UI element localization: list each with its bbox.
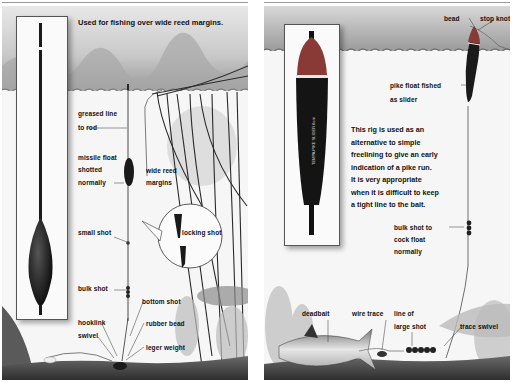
top-rule-right — [264, 2, 510, 3]
desc-line-2: alternative to simple — [351, 137, 461, 150]
desc-line-6: when it is difficult to keep — [351, 187, 461, 200]
label-to-rod: to rod — [78, 123, 97, 132]
desc-line-7: a tight line to the bait. — [351, 199, 461, 212]
label-bulk-shot-to: bulk shot to — [394, 223, 432, 232]
desc-line-1: This rig is used as an — [351, 124, 461, 137]
desc-line-5: It is very appropriate — [351, 174, 461, 187]
missile-float-image — [17, 17, 67, 319]
label-pike-float: pike float fished — [390, 81, 441, 90]
rig-description: This rig is used as an alternative to si… — [351, 124, 461, 212]
label-small-shot: small shot — [78, 228, 111, 237]
label-trace-swivel: trace swivel — [460, 322, 498, 331]
label-deadbait: deadbait — [302, 309, 330, 318]
label-rubber-bead: rubber bead — [146, 319, 185, 328]
top-rule-left — [2, 2, 248, 3]
label-bottom-shot: bottom shot — [142, 297, 181, 306]
missile-float-rig-panel: Used for fishing over wide reed margins.… — [2, 6, 248, 380]
pike-float-inset: TEMPA PIKE SLIDER float — [284, 24, 340, 246]
label-locking-shot: locking shot — [182, 228, 221, 237]
label-greased-line: greased line — [78, 109, 117, 118]
label-missile-float: missile float — [78, 153, 117, 162]
label-bead: bead — [444, 14, 460, 23]
pike-slider-rig-panel: TEMPA PIKE SLIDER float This rig is used… — [264, 6, 510, 380]
label-line-of: line of — [394, 309, 414, 318]
label-margins: margins — [146, 178, 172, 187]
float-brand-text: TEMPA PIKE SLIDER float — [311, 116, 316, 165]
label-stop-knot: stop knot — [480, 14, 510, 23]
desc-line-4: indication of a pike run. — [351, 162, 461, 175]
label-hooklink: hooklink — [78, 318, 106, 327]
label-large-shot: large shot — [394, 322, 426, 331]
label-wide-reed: wide reed — [146, 166, 177, 175]
label-bulk-shot: bulk shot — [78, 284, 108, 293]
rig-caption: Used for fishing over wide reed margins. — [78, 18, 223, 27]
pike-slider-float-image: TEMPA PIKE SLIDER float — [285, 25, 339, 245]
label-normally: normally — [78, 178, 106, 187]
label-as-slider: as slider — [390, 95, 417, 104]
label-normally-right: normally — [394, 247, 422, 256]
missile-float-inset — [16, 16, 68, 320]
desc-line-3: freelining to give an early — [351, 149, 461, 162]
label-swivel: swivel — [78, 331, 98, 340]
label-shotted: shotted — [78, 165, 102, 174]
label-cock-float: cock float — [394, 235, 425, 244]
label-leger-weight: leger weight — [146, 343, 185, 352]
label-wire-trace: wire trace — [352, 309, 383, 318]
